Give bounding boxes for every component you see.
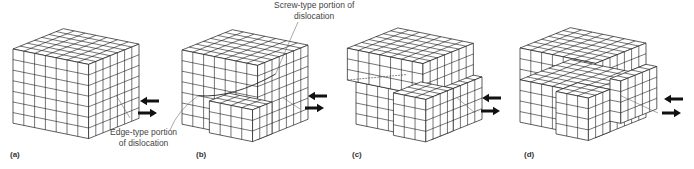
- slipped-region: [393, 82, 453, 142]
- screw-annotation-line1: Screw-type portion of: [274, 0, 354, 11]
- shear-arrow-bottom-icon: [138, 109, 157, 117]
- panel-b-crystal: [170, 22, 327, 142]
- panel-label-d: (d): [524, 150, 534, 159]
- panel-a-crystal: [13, 29, 159, 139]
- shear-arrow-bottom-icon: [662, 109, 681, 117]
- shear-arrow-bottom-icon: [481, 107, 500, 115]
- panel-label-a: (a): [10, 150, 20, 159]
- edge-annotation-line2: of dislocation: [110, 138, 177, 149]
- shear-arrow-top-icon: [664, 95, 683, 103]
- lattice-block: [13, 29, 139, 139]
- panel-label-b: (b): [196, 150, 206, 159]
- screw-annotation-line2: dislocation: [274, 11, 354, 22]
- step-front: [556, 83, 610, 141]
- shear-arrow-top-icon: [140, 97, 159, 105]
- panel-d-crystal: [520, 28, 683, 141]
- shear-arrow-top-icon: [308, 92, 327, 100]
- slipped-region: [209, 93, 272, 141]
- edge-annotation-line1: Edge-type portion: [110, 127, 177, 138]
- panel-c-crystal: [347, 28, 501, 142]
- dislocation-diagram: [0, 0, 694, 169]
- panel-label-c: (c): [352, 150, 362, 159]
- screw-dislocation-annotation: Screw-type portion of dislocation: [274, 0, 354, 22]
- edge-dislocation-annotation: Edge-type portion of dislocation: [110, 127, 177, 149]
- shear-arrow-top-icon: [482, 94, 501, 102]
